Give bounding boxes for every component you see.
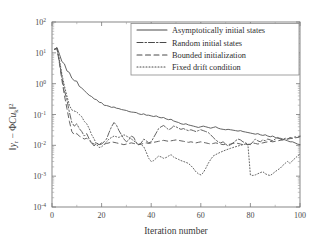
x-tick-label: 60 [197, 211, 205, 220]
x-tick-label: 100 [294, 211, 306, 220]
y-tick-label: 10-4 [33, 202, 46, 212]
x-tick-label: 0 [50, 211, 54, 220]
legend: Asymptotically initial statesRandom init… [131, 24, 299, 76]
ylabel-phi: Φ [8, 124, 18, 131]
x-tick-label: 20 [98, 211, 106, 220]
svg-text:‖yr − ΦCuk‖2: ‖yr − ΦCuk‖2 [7, 104, 18, 150]
y-tick-label: 102 [35, 17, 46, 27]
y-tick-label: 10-2 [33, 141, 46, 151]
y-tick-label: 100 [35, 79, 46, 89]
legend-label-2: Bounded initialization [172, 51, 247, 60]
x-tick-label: 40 [147, 211, 155, 220]
x-axis-title: Iteration number [144, 226, 208, 236]
y-tick-label: 10-3 [33, 172, 46, 182]
legend-label-0: Asymptotically initial states [172, 26, 265, 35]
legend-label-3: Fixed drift condition [172, 63, 242, 72]
figure-container: 10-410-310-210-1100101102 020406080100 ‖… [0, 0, 321, 251]
chart-canvas: 10-410-310-210-1100101102 020406080100 ‖… [0, 0, 321, 251]
y-tick-label: 10-1 [33, 110, 46, 120]
legend-label-1: Random initial states [172, 39, 242, 48]
ylabel-superscript: 2 [7, 104, 14, 107]
x-tick-label: 80 [246, 211, 254, 220]
y-tick-label: 101 [35, 48, 46, 58]
y-axis-title: ‖yr − ΦCuk‖2 [7, 104, 18, 150]
